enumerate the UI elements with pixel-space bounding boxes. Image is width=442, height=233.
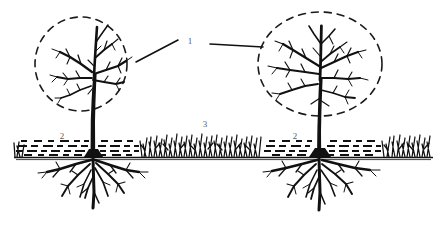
grass-strip-right: [382, 135, 430, 157]
right-root-system: [263, 158, 380, 210]
left-root-system: [38, 158, 148, 208]
ground-band-group: [14, 134, 433, 160]
right-branches: [268, 26, 368, 106]
label-2-mulch-right: 2: [293, 131, 298, 141]
leader-to-left-crown: [136, 40, 178, 62]
label-2-mulch-left: 2: [60, 131, 65, 141]
figure-canvas: 1 2 3 2: [0, 0, 442, 233]
orchard-diagram-svg: 1 2 3 2: [0, 0, 442, 233]
left-tree-group: [35, 17, 148, 208]
mulch-strip-left: [16, 141, 139, 155]
label-3-grass-strip: 3: [203, 119, 208, 129]
left-branches: [50, 25, 132, 103]
mulch-left-edge-tufts: [14, 142, 24, 157]
label-1-crown-projection: 1: [188, 36, 193, 46]
leader-to-right-crown: [210, 44, 263, 47]
leader-lines-group: [136, 40, 263, 62]
right-tree-group: [258, 12, 382, 210]
grass-strip-middle: [140, 134, 261, 157]
